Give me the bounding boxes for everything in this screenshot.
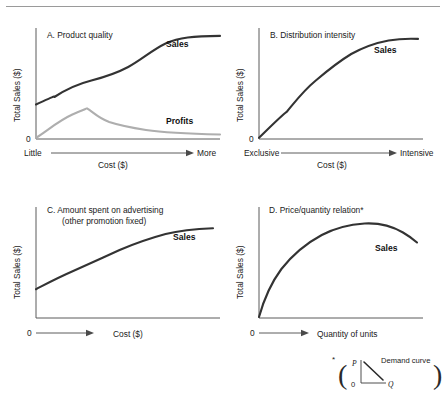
panel-b-x-right-label: Intensive (400, 148, 434, 158)
panel-distribution-intensity: Total Sales ($) 0 B. Distribution intens… (223, 14, 446, 199)
panel-advertising-spend: Total Sales ($) C. Amount spent on adver… (0, 199, 223, 384)
footnote-demand-curve-inset: * ( P 0 Q Demand curve ) (330, 346, 446, 396)
inset-price-axis-label: P (351, 359, 357, 368)
panel-a-profits-label: Profits (166, 116, 193, 126)
inset-caption: Demand curve (381, 356, 430, 365)
panel-a-title: A. Product quality (47, 30, 113, 40)
panel-d-x-zero-label: 0 (250, 328, 255, 338)
panel-d-title: D. Price/quantity relation* (269, 205, 364, 215)
panel-b-x-axis-label: Cost ($) (317, 160, 347, 170)
panel-a-x-arrow-head (186, 150, 194, 156)
panel-d-sales-label: Sales (375, 243, 398, 253)
panel-a-x-left-label: Little (24, 148, 42, 158)
panel-b-y-zero-label: 0 (249, 134, 254, 144)
panel-c-sales-label: Sales (173, 232, 196, 242)
panel-c-title-line2: (other promotion fixed) (62, 216, 146, 226)
panel-product-quality: Total Sales ($) 0 A. Product quality Sal… (0, 14, 223, 199)
panel-c-x-arrow-head (86, 330, 94, 336)
panel-a-x-axis-label: Cost ($) (98, 160, 128, 170)
panel-d-sales-curve (259, 223, 417, 317)
inset-zero-label: 0 (351, 380, 355, 389)
panel-c-x-axis-label: Cost ($) (113, 329, 143, 339)
panel-a-sales-label: Sales (166, 39, 189, 49)
panel-a-x-right-label: More (197, 148, 216, 158)
panel-c-title-line1: C. Amount spent on advertising (47, 205, 164, 215)
panel-b-title: B. Distribution intensity (270, 30, 356, 40)
panel-b-y-axis-label: Total Sales ($) (235, 68, 245, 122)
footnote-asterisk: * (332, 355, 335, 364)
panel-b-sales-label: Sales (374, 45, 397, 55)
footnote-open-paren: ( (338, 359, 347, 390)
footnote-close-paren: ) (433, 359, 442, 390)
panel-a-sales-curve (36, 36, 220, 105)
panel-c-y-axis-label: Total Sales ($) (12, 245, 22, 299)
panel-b-x-left-label: Exclusive (244, 148, 280, 158)
figure-top-rule (6, 6, 440, 7)
panel-a-y-axis-label: Total Sales ($) (12, 68, 22, 122)
panel-d-x-axis-label: Quantity of units (317, 329, 378, 339)
panel-d-y-axis-label: Total Sales ($) (235, 245, 245, 299)
panel-b-x-arrow-head (389, 150, 397, 156)
panel-c-x-zero-label: 0 (27, 328, 32, 338)
inset-quantity-axis-label: Q (388, 380, 394, 389)
panel-a-y-zero-label: 0 (26, 134, 31, 144)
panel-d-x-arrow-head (301, 330, 309, 336)
